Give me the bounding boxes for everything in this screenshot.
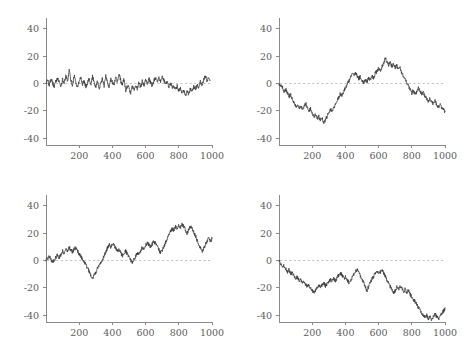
y-tick-label: 40 — [260, 23, 272, 34]
x-tick-label: 1000 — [433, 150, 457, 161]
y-tick-label: 40 — [27, 200, 39, 211]
panel-top-left: -40-20020402004006008001000 — [0, 0, 233, 177]
x-tick-label: 1000 — [433, 327, 457, 338]
y-tick-label: -20 — [257, 105, 272, 116]
panel-bottom-right-svg: -40-20020402004006008001000 — [233, 177, 466, 354]
y-tick-label: 20 — [260, 228, 272, 239]
y-tick-label: -40 — [24, 133, 39, 144]
axis-spines — [46, 195, 212, 322]
panel-top-right-svg: -40-20020402004006008001000 — [233, 0, 466, 177]
series-line-series-2 — [279, 58, 445, 124]
series-line-series-1 — [46, 69, 210, 96]
x-tick-label: 400 — [336, 327, 354, 338]
y-tick-label: 0 — [33, 255, 39, 266]
figure-random-walk-panels: -40-20020402004006008001000 -40-20020402… — [0, 0, 467, 354]
y-tick-label: 20 — [27, 51, 39, 62]
y-tick-label: -20 — [257, 282, 272, 293]
y-tick-label: 20 — [27, 228, 39, 239]
panel-bottom-left: -40-20020402004006008001000 — [0, 177, 233, 354]
x-tick-label: 1000 — [200, 327, 224, 338]
y-tick-label: 40 — [260, 200, 272, 211]
panel-top-right: -40-20020402004006008001000 — [233, 0, 466, 177]
x-tick-label: 1000 — [200, 150, 224, 161]
y-tick-label: 0 — [33, 78, 39, 89]
x-tick-label: 200 — [70, 150, 88, 161]
y-tick-label: 0 — [266, 78, 272, 89]
x-tick-label: 800 — [170, 327, 188, 338]
y-tick-label: -20 — [24, 282, 39, 293]
series-line-series-3 — [46, 223, 212, 279]
x-tick-label: 600 — [370, 327, 388, 338]
y-tick-label: -40 — [257, 310, 272, 321]
x-tick-label: 400 — [103, 327, 121, 338]
y-tick-label: -20 — [24, 105, 39, 116]
series-line-series-4 — [279, 260, 445, 320]
x-tick-label: 200 — [70, 327, 88, 338]
axis-spines — [279, 195, 445, 322]
panel-bottom-left-svg: -40-20020402004006008001000 — [0, 177, 233, 354]
x-tick-label: 200 — [303, 150, 321, 161]
panel-top-left-svg: -40-20020402004006008001000 — [0, 0, 233, 177]
x-tick-label: 600 — [370, 150, 388, 161]
y-tick-label: -40 — [257, 133, 272, 144]
x-tick-label: 400 — [336, 150, 354, 161]
x-tick-label: 400 — [103, 150, 121, 161]
y-tick-label: 0 — [266, 255, 272, 266]
x-tick-label: 600 — [137, 327, 155, 338]
x-tick-label: 200 — [303, 327, 321, 338]
x-tick-label: 800 — [403, 150, 421, 161]
y-tick-label: 40 — [27, 23, 39, 34]
y-tick-label: 20 — [260, 51, 272, 62]
x-tick-label: 600 — [137, 150, 155, 161]
x-tick-label: 800 — [170, 150, 188, 161]
panel-bottom-right: -40-20020402004006008001000 — [233, 177, 466, 354]
y-tick-label: -40 — [24, 310, 39, 321]
x-tick-label: 800 — [403, 327, 421, 338]
